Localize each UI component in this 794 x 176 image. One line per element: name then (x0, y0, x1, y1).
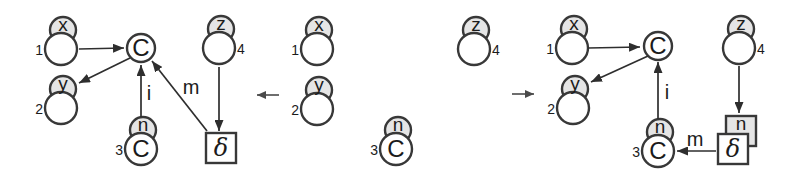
rhs-graph-node-4: z4 (723, 13, 765, 64)
diagram-svg: x1y2nC3z4Cδimx1y2nC3z4x1y2nC3z4Cnδim (0, 0, 794, 176)
port-number: 4 (757, 41, 765, 57)
rhs-graph-node-2: y2 (547, 73, 589, 124)
interface-graph: x1y2nC3z4 (291, 14, 500, 165)
port-type-label: y (570, 73, 580, 94)
port-inner-label: C (132, 135, 149, 162)
edge-label: m (183, 76, 200, 98)
port-body-circle (723, 32, 755, 64)
rhs-graph-node-3: nC3 (632, 116, 674, 167)
port-number: 3 (632, 144, 640, 160)
edge-label: i (665, 81, 669, 103)
interface-graph-node-4: z4 (458, 14, 500, 65)
port-type-label: n (655, 116, 666, 137)
rhs-graph: x1y2nC3z4Cnδim (546, 13, 765, 167)
port-type-label: x (314, 14, 324, 35)
port-body-circle (45, 33, 77, 65)
port-number: 1 (291, 42, 299, 58)
lhs-graph-node-4: z4 (203, 13, 245, 64)
port-type-label: x (569, 13, 579, 34)
port-body-circle (45, 92, 77, 124)
port-number: 2 (35, 101, 43, 117)
lhs-graph: x1y2nC3z4Cδim (35, 13, 245, 165)
port-number: 2 (547, 101, 555, 117)
state-label: C (649, 32, 666, 59)
rhs-graph-node-δ: nδ (718, 113, 756, 164)
port-type-label: n (138, 114, 149, 135)
delta-back-label: n (736, 113, 747, 134)
lhs-graph-node-1: x1 (35, 14, 77, 65)
port-body-circle (301, 93, 333, 125)
port-type-label: y (314, 74, 324, 95)
port-type-label: n (393, 114, 404, 135)
delta-label: δ (214, 134, 228, 162)
rhs-graph-node-1: x1 (546, 13, 588, 64)
port-body-circle (301, 33, 333, 65)
delta-label: δ (726, 135, 740, 163)
edge-arrow (588, 47, 640, 48)
lhs-graph-node-C: C (127, 34, 155, 62)
port-number: 4 (492, 42, 500, 58)
edge-arrow (79, 48, 124, 49)
edge-label: m (687, 128, 704, 150)
lhs-graph-node-3: nC3 (115, 114, 157, 165)
port-inner-label: C (387, 135, 404, 162)
port-number: 1 (35, 42, 43, 58)
rhs-graph-node-C: C (644, 32, 672, 60)
edge-arrow (79, 58, 130, 83)
state-label: C (132, 34, 149, 61)
port-number: 3 (370, 142, 378, 158)
lhs-graph-node-δ: δ (206, 133, 236, 163)
interface-graph-node-3: nC3 (370, 114, 412, 165)
port-inner-label: C (649, 137, 666, 164)
port-type-label: y (58, 73, 68, 94)
edge-label: i (147, 82, 151, 104)
interface-graph-node-2: y2 (291, 74, 333, 125)
graph-rewrite-figure: x1y2nC3z4Cδimx1y2nC3z4x1y2nC3z4Cnδim (0, 0, 794, 176)
interface-graph-node-1: x1 (291, 14, 333, 65)
port-type-label: z (216, 13, 226, 34)
port-type-label: x (58, 14, 68, 35)
port-body-circle (203, 32, 235, 64)
port-body-circle (458, 33, 490, 65)
lhs-graph-node-2: y2 (35, 73, 77, 124)
port-body-circle (556, 32, 588, 64)
port-type-label: z (736, 13, 746, 34)
port-number: 1 (546, 41, 554, 57)
port-number: 4 (237, 41, 245, 57)
edge-arrow (591, 56, 648, 82)
port-body-circle (557, 92, 589, 124)
port-number: 3 (115, 142, 123, 158)
port-type-label: z (471, 14, 481, 35)
port-number: 2 (291, 102, 299, 118)
